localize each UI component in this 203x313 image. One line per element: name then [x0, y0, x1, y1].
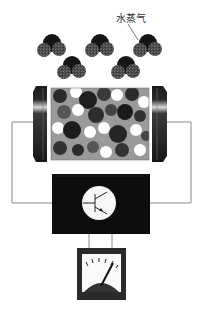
analog-meter-icon: [77, 248, 126, 300]
water-molecule-icon: [111, 56, 140, 79]
left-electrode: [33, 86, 47, 162]
water-molecules: [37, 34, 162, 79]
sensor-porous-material: [51, 86, 151, 160]
right-electrode: [152, 86, 167, 162]
amplifier-box: [52, 174, 150, 234]
label-leader-line: [128, 24, 138, 40]
water-molecule-icon: [37, 34, 66, 57]
water-molecule-icon: [85, 34, 114, 57]
water-molecule-icon: [133, 34, 162, 57]
diagram-canvas: [0, 0, 203, 313]
water-molecule-icon: [57, 56, 86, 79]
